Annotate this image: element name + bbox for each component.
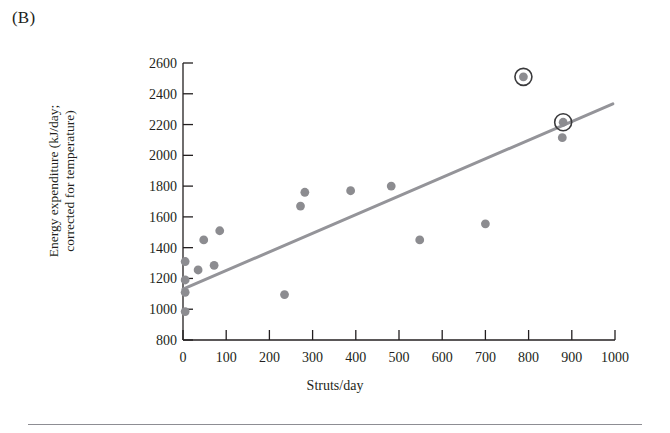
scatter-plot-canvas: 800100012001400160018002000220024002600 … — [0, 0, 670, 433]
y-tick-label: 1000 — [149, 302, 177, 317]
data-point — [215, 226, 224, 235]
data-point — [558, 133, 567, 142]
y-tick-label: 2400 — [149, 87, 177, 102]
data-point — [346, 186, 355, 195]
x-tick-label: 100 — [216, 350, 237, 365]
y-tick-label: 1600 — [149, 210, 177, 225]
data-point — [481, 219, 490, 228]
x-tick-label: 600 — [432, 350, 453, 365]
regression-trendline — [183, 104, 613, 289]
x-tick-label: 1000 — [601, 350, 629, 365]
data-point — [194, 266, 203, 275]
x-axis-label: Struts/day — [0, 378, 670, 394]
x-tick-label: 500 — [389, 350, 410, 365]
y-tick-label: 800 — [156, 333, 177, 348]
data-point — [296, 202, 305, 211]
data-point — [199, 236, 208, 245]
data-point — [300, 188, 309, 197]
data-point — [280, 290, 289, 299]
x-tick-label: 0 — [180, 350, 187, 365]
data-points — [181, 68, 572, 316]
data-point — [181, 276, 190, 285]
data-point — [415, 236, 424, 245]
data-point — [210, 261, 219, 270]
x-tick-label: 200 — [259, 350, 280, 365]
data-point — [181, 257, 190, 266]
data-point — [181, 288, 190, 297]
x-tick-label: 400 — [345, 350, 366, 365]
y-tick-label: 2600 — [149, 56, 177, 71]
y-tick-label: 1800 — [149, 179, 177, 194]
y-tick-label: 1200 — [149, 271, 177, 286]
x-axis-ticks: 01002003004005006007008009001000 — [180, 330, 630, 365]
y-tick-label: 2000 — [149, 148, 177, 163]
data-point — [387, 182, 396, 191]
y-tick-label: 2200 — [149, 118, 177, 133]
x-tick-label: 700 — [475, 350, 496, 365]
x-tick-label: 900 — [561, 350, 582, 365]
data-point — [559, 118, 568, 127]
data-point — [181, 307, 190, 316]
y-tick-label: 1400 — [149, 241, 177, 256]
bottom-divider-rule — [28, 424, 642, 425]
x-tick-label: 800 — [518, 350, 539, 365]
data-point — [519, 72, 528, 81]
plot-axes — [183, 63, 615, 340]
trendline — [183, 104, 613, 289]
x-tick-label: 300 — [302, 350, 323, 365]
figure-panel-b: (B) Energy expenditure (kJ/day;corrected… — [0, 0, 670, 433]
y-axis-ticks: 800100012001400160018002000220024002600 — [149, 56, 193, 348]
